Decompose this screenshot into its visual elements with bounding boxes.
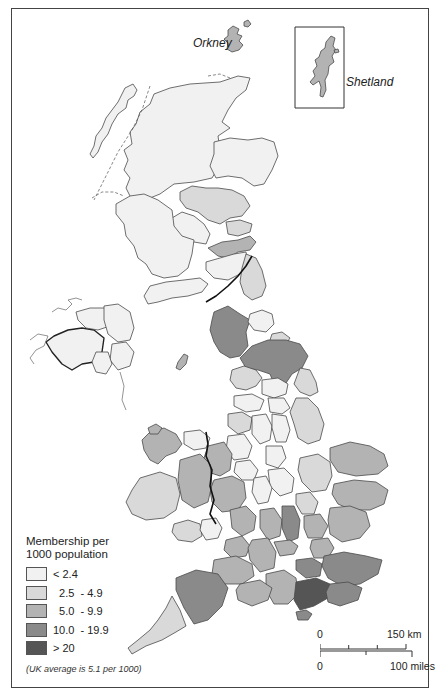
region-down [110, 342, 134, 370]
region-antrim [104, 304, 134, 342]
region-northumberland [240, 254, 266, 300]
region-derbyshire [252, 414, 272, 444]
legend-title-line1: Membership per [26, 535, 166, 548]
region-powys [178, 454, 212, 508]
region-leicestershire [266, 446, 286, 468]
legend-label: 10.0 - 19.9 [53, 624, 109, 636]
region-grampian [210, 138, 278, 186]
sea-boundary-line [92, 192, 124, 198]
region-isle-of-wight [296, 610, 312, 620]
legend-item: > 20 [26, 639, 166, 658]
region-dumfries [144, 278, 208, 304]
region-fife [226, 220, 252, 236]
region-hertfordshire [304, 514, 328, 538]
region-humberside [294, 368, 318, 396]
region-west-midlands [234, 460, 258, 480]
region-suffolk [332, 480, 388, 510]
legend-label: < 2.4 [53, 568, 78, 580]
scale-km-label: 150 km [387, 628, 421, 640]
region-gwent [200, 518, 222, 540]
region-armagh [92, 352, 112, 374]
region-shetland [310, 36, 336, 97]
legend-swatch [26, 586, 47, 600]
region-west-sussex [294, 578, 330, 610]
legend-swatch [26, 604, 47, 618]
region-berkshire [274, 540, 298, 556]
region-essex [328, 506, 370, 542]
region-northamptonshire [268, 468, 294, 496]
region-surrey [296, 558, 322, 578]
legend-label: > 20 [53, 642, 75, 654]
region-durham [248, 310, 274, 332]
region-devon [176, 570, 228, 624]
region-manchester [234, 394, 264, 412]
region-glamorgan [172, 520, 202, 542]
region-oxfordshire [260, 508, 282, 540]
region-south-yorkshire [268, 398, 290, 414]
region-gloucestershire [230, 506, 256, 536]
legend-swatch [26, 641, 47, 655]
legend: Membership per 1000 population < 2.4 2.5… [26, 535, 166, 674]
region-norfolk [330, 442, 388, 476]
scale-bar: 0 150 km 0 100 miles [320, 628, 425, 672]
region-isle-of-man [176, 354, 188, 370]
legend-swatch [26, 567, 47, 581]
region-bedfordshire [296, 492, 318, 514]
region-east-sussex [326, 582, 362, 606]
scale-km-zero: 0 [317, 628, 323, 640]
region-kent [322, 552, 382, 586]
region-cumbria [210, 306, 250, 358]
region-cheshire [228, 412, 252, 434]
scale-mi-label: 100 miles [390, 660, 435, 672]
region-cambridgeshire [298, 454, 332, 492]
region-dyfed [126, 472, 180, 520]
region-lincolnshire [290, 398, 324, 444]
label-shetland: Shetland [346, 75, 394, 89]
legend-label: 2.5 - 4.9 [53, 587, 103, 599]
region-avon [224, 536, 250, 558]
region-hereford-worcester [210, 476, 246, 512]
region-gwynedd [142, 428, 182, 464]
scale-mi-zero: 0 [317, 660, 323, 672]
region-shetland-isle [334, 49, 339, 53]
legend-title: Membership per 1000 population [26, 535, 166, 561]
legend-item: 10.0 - 19.9 [26, 621, 166, 640]
region-strathclyde [116, 194, 194, 278]
legend-item: 5.0 - 9.9 [26, 602, 166, 621]
region-nottinghamshire [272, 414, 290, 442]
label-orkney: Orkney [193, 36, 233, 50]
legend-swatch [26, 623, 47, 637]
legend-item: < 2.4 [26, 565, 166, 584]
region-buckinghamshire [282, 506, 300, 542]
legend-item: 2.5 - 4.9 [26, 584, 166, 603]
legend-label: 5.0 - 9.9 [53, 605, 103, 617]
sea-boundary-line [208, 74, 230, 78]
legend-title-line2: 1000 population [26, 548, 166, 561]
legend-note: (UK average is 5.1 per 1000) [26, 664, 166, 674]
